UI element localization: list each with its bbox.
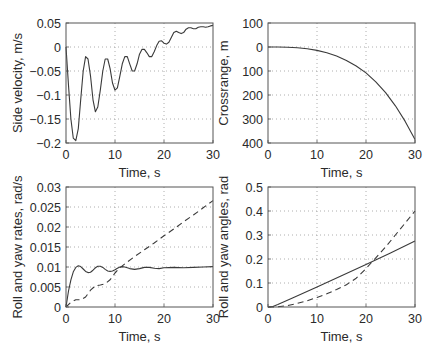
y-tick-label: 0.1 (246, 277, 263, 291)
y-tick-label: −0.1 (36, 89, 61, 103)
y-tick-label: 0.01 (37, 261, 61, 275)
x-tick-label: 20 (157, 148, 171, 162)
axes-frame (66, 23, 213, 143)
y-tick-label: 0.025 (30, 201, 61, 215)
y-tick-label: −0.05 (29, 65, 61, 79)
x-tick-label: 20 (157, 312, 171, 326)
x-axis-label: Time, s (320, 329, 363, 344)
x-tick-label: 10 (310, 148, 324, 162)
panel-side-velocity: 01020300.050−0.05−0.1−0.15−0.2Time, sSid… (10, 17, 220, 181)
y-axis-label: Roll and yaw angles, rad (216, 176, 231, 318)
y-tick-label: 0.3 (246, 229, 263, 243)
y-tick-label: 0 (256, 41, 263, 55)
axes-frame (268, 187, 415, 307)
x-tick-label: 0 (63, 312, 70, 326)
x-tick-label: 10 (108, 312, 122, 326)
y-tick-label: 400 (242, 137, 263, 151)
x-axis-label: Time, s (118, 329, 161, 344)
series-crossrange (268, 47, 415, 139)
y-tick-label: 0 (54, 301, 61, 315)
y-tick-label: −0.15 (29, 113, 61, 127)
series-side-velocity (66, 25, 213, 140)
y-tick-label: −0.2 (36, 137, 61, 151)
x-tick-label: 0 (265, 312, 272, 326)
y-tick-label: 100 (242, 65, 263, 79)
series-roll-rate (66, 266, 213, 307)
x-axis-label: Time, s (118, 165, 161, 180)
y-axis-label: Side velocity, m/s (10, 32, 25, 133)
x-tick-label: 30 (408, 312, 422, 326)
figure: 01020300.050−0.05−0.1−0.15−0.2Time, sSid… (0, 0, 435, 359)
x-tick-label: 20 (359, 312, 373, 326)
x-tick-label: 0 (63, 148, 70, 162)
y-tick-label: 0.015 (30, 241, 61, 255)
y-tick-label: 0.05 (37, 17, 61, 31)
x-axis-label: Time, s (320, 165, 363, 180)
y-tick-label: 100 (242, 17, 263, 31)
panel-crossrange: 01020301000100200300400Time, sCrossrange… (216, 17, 422, 181)
series-roll-angle (268, 241, 415, 307)
y-tick-label: 0 (256, 301, 263, 315)
y-tick-label: 300 (242, 113, 263, 127)
y-tick-label: 0 (54, 41, 61, 55)
y-tick-label: 0.2 (246, 253, 263, 267)
y-tick-label: 0.005 (30, 281, 61, 295)
y-tick-label: 0.5 (246, 181, 263, 195)
panel-roll-yaw-angles: 01020300.50.40.30.20.10Time, sRoll and y… (216, 176, 422, 344)
panel-roll-yaw-rates: 01020300.030.0250.020.0150.010.0050Time,… (10, 175, 220, 344)
y-tick-label: 200 (242, 89, 263, 103)
x-tick-label: 20 (359, 148, 373, 162)
series-yaw-rate (66, 201, 213, 307)
axes-frame (268, 23, 415, 143)
x-tick-label: 10 (108, 148, 122, 162)
x-tick-label: 30 (408, 148, 422, 162)
x-tick-label: 10 (310, 312, 324, 326)
y-tick-label: 0.03 (37, 181, 61, 195)
y-tick-label: 0.4 (246, 205, 263, 219)
x-tick-label: 0 (265, 148, 272, 162)
y-axis-label: Roll and yaw rates, rad/s (10, 175, 25, 319)
y-tick-label: 0.02 (37, 221, 61, 235)
y-axis-label: Crossrange, m (216, 40, 231, 125)
x-tick-label: 30 (206, 148, 220, 162)
